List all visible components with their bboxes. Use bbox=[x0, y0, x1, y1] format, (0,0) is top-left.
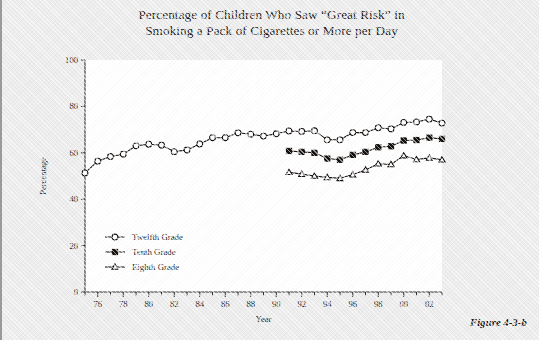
data-point-marker bbox=[363, 130, 369, 136]
data-point-marker bbox=[261, 133, 267, 139]
data-point-marker bbox=[133, 143, 139, 149]
data-point-marker bbox=[112, 249, 117, 254]
data-point-marker bbox=[286, 148, 291, 153]
x-axis-title: Year bbox=[256, 314, 272, 324]
data-point-marker bbox=[350, 130, 356, 136]
y-tick-label: 0 bbox=[74, 287, 78, 297]
data-point-marker bbox=[235, 130, 241, 136]
data-point-marker bbox=[427, 135, 432, 140]
data-point-marker bbox=[171, 149, 177, 155]
x-tick-label: 80 bbox=[144, 299, 153, 309]
data-point-marker bbox=[159, 142, 165, 148]
legend-label: Eighth Grade bbox=[132, 262, 179, 272]
data-point-marker bbox=[108, 154, 114, 160]
y-axis-title: Percentage bbox=[38, 157, 48, 195]
line-chart: 020406080100 767880828486889092949698000… bbox=[2, 0, 539, 340]
data-point-marker bbox=[325, 156, 330, 161]
data-point-marker bbox=[426, 116, 432, 122]
x-tick-label: 76 bbox=[93, 299, 102, 309]
x-tick-label: 96 bbox=[348, 299, 357, 309]
data-point-marker bbox=[312, 128, 318, 134]
data-point-marker bbox=[146, 141, 152, 147]
legend-label: Tenth Grade bbox=[132, 247, 176, 257]
x-axis: 7678808284868890929496980002 bbox=[85, 292, 442, 309]
data-point-marker bbox=[299, 129, 305, 135]
data-point-marker bbox=[197, 141, 203, 147]
data-point-marker bbox=[112, 234, 118, 240]
data-point-marker bbox=[184, 147, 190, 153]
chart-legend: Twelfth GradeTenth GradeEighth Grade bbox=[105, 232, 183, 272]
y-tick-label: 80 bbox=[69, 101, 78, 111]
data-point-marker bbox=[82, 170, 88, 176]
figure-container: Percentage of Children Who Saw “Great Ri… bbox=[0, 0, 539, 340]
data-point-marker bbox=[337, 137, 343, 143]
data-point-marker bbox=[324, 137, 330, 143]
x-tick-label: 90 bbox=[272, 299, 281, 309]
y-tick-label: 40 bbox=[69, 194, 78, 204]
data-point-marker bbox=[414, 119, 420, 125]
figure-caption: Figure 4-3-b bbox=[470, 317, 527, 328]
data-point-marker bbox=[350, 152, 355, 157]
data-point-marker bbox=[273, 131, 279, 137]
data-point-marker bbox=[439, 136, 444, 141]
legend-label: Twelfth Grade bbox=[132, 232, 183, 242]
data-point-marker bbox=[210, 135, 216, 141]
x-tick-label: 78 bbox=[119, 299, 128, 309]
data-point-marker bbox=[439, 120, 445, 126]
data-point-marker bbox=[286, 128, 292, 134]
data-point-marker bbox=[95, 158, 101, 164]
y-tick-label: 100 bbox=[65, 55, 78, 65]
data-point-marker bbox=[414, 137, 419, 142]
data-point-marker bbox=[299, 149, 304, 154]
x-tick-label: 98 bbox=[374, 299, 383, 309]
data-point-marker bbox=[222, 135, 228, 141]
data-point-marker bbox=[337, 157, 342, 162]
y-axis: 020406080100 bbox=[65, 55, 85, 297]
x-tick-label: 84 bbox=[195, 299, 204, 309]
x-tick-label: 82 bbox=[170, 299, 179, 309]
data-point-marker bbox=[401, 138, 406, 143]
data-point-marker bbox=[120, 151, 126, 157]
x-tick-label: 92 bbox=[297, 299, 306, 309]
data-point-marker bbox=[401, 120, 407, 126]
data-point-marker bbox=[363, 149, 368, 154]
data-point-marker bbox=[388, 126, 394, 132]
data-point-marker bbox=[375, 125, 381, 131]
x-tick-label: 88 bbox=[246, 299, 255, 309]
data-point-marker bbox=[388, 144, 393, 149]
x-tick-label: 86 bbox=[221, 299, 230, 309]
data-point-marker bbox=[248, 131, 254, 137]
y-tick-label: 20 bbox=[69, 241, 78, 251]
x-tick-label: 02 bbox=[425, 299, 434, 309]
data-point-marker bbox=[376, 145, 381, 150]
data-point-marker bbox=[312, 150, 317, 155]
y-tick-label: 60 bbox=[69, 148, 78, 158]
x-tick-label: 94 bbox=[323, 299, 332, 309]
x-tick-label: 00 bbox=[399, 299, 408, 309]
